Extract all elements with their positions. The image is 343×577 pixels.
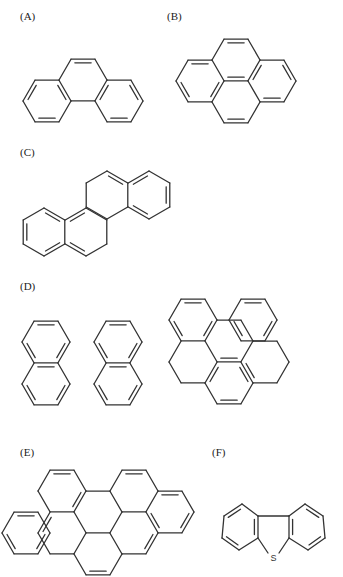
sulfur-atom-label: S (271, 553, 277, 563)
molecule-diagrams: S (0, 0, 343, 577)
